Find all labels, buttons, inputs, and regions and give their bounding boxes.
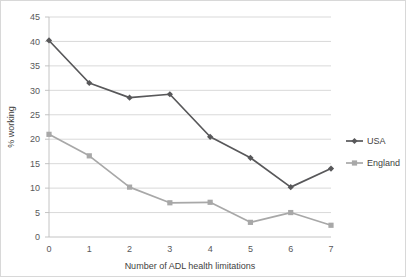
data-point-marker xyxy=(351,138,357,144)
x-tick-label: 1 xyxy=(87,244,92,254)
data-point-marker xyxy=(167,200,172,205)
legend-item-england[interactable]: England xyxy=(346,158,400,168)
data-point-marker xyxy=(126,95,132,101)
gridlines xyxy=(45,17,331,237)
series-england xyxy=(46,132,333,228)
data-point-marker xyxy=(87,153,92,158)
y-tick-label: 35 xyxy=(30,61,40,71)
x-tick-label: 2 xyxy=(127,244,132,254)
chart-container: 05101520253035404501234567Number of ADL … xyxy=(0,0,406,277)
legend-item-usa[interactable]: USA xyxy=(346,136,386,146)
y-tick-label: 10 xyxy=(30,183,40,193)
y-tick-label: 45 xyxy=(30,12,40,22)
x-tick-label: 0 xyxy=(46,244,51,254)
data-point-marker xyxy=(352,160,357,165)
data-point-marker xyxy=(328,165,334,171)
y-tick-label: 15 xyxy=(30,159,40,169)
legend-label: USA xyxy=(367,136,386,146)
data-point-marker xyxy=(208,200,213,205)
x-tick-label: 4 xyxy=(208,244,213,254)
x-tick-label: 7 xyxy=(328,244,333,254)
y-tick-label: 20 xyxy=(30,134,40,144)
y-axis-title: % working xyxy=(6,106,16,148)
y-tick-label: 40 xyxy=(30,37,40,47)
series-line xyxy=(49,40,331,187)
data-point-marker xyxy=(46,132,51,137)
legend-label: England xyxy=(367,158,400,168)
data-point-marker xyxy=(328,223,333,228)
x-tick-label: 5 xyxy=(248,244,253,254)
legend: USAEngland xyxy=(346,136,400,168)
y-tick-label: 25 xyxy=(30,110,40,120)
x-axis-title: Number of ADL health limitations xyxy=(125,261,256,271)
y-tick-label: 5 xyxy=(35,208,40,218)
y-tick-label: 30 xyxy=(30,86,40,96)
line-chart: 05101520253035404501234567Number of ADL … xyxy=(1,1,406,277)
data-point-marker xyxy=(127,185,132,190)
x-tick-label: 6 xyxy=(288,244,293,254)
series-usa xyxy=(46,37,334,190)
data-point-marker xyxy=(248,220,253,225)
y-tick-label: 0 xyxy=(35,232,40,242)
x-tick-label: 3 xyxy=(167,244,172,254)
data-point-marker xyxy=(288,210,293,215)
